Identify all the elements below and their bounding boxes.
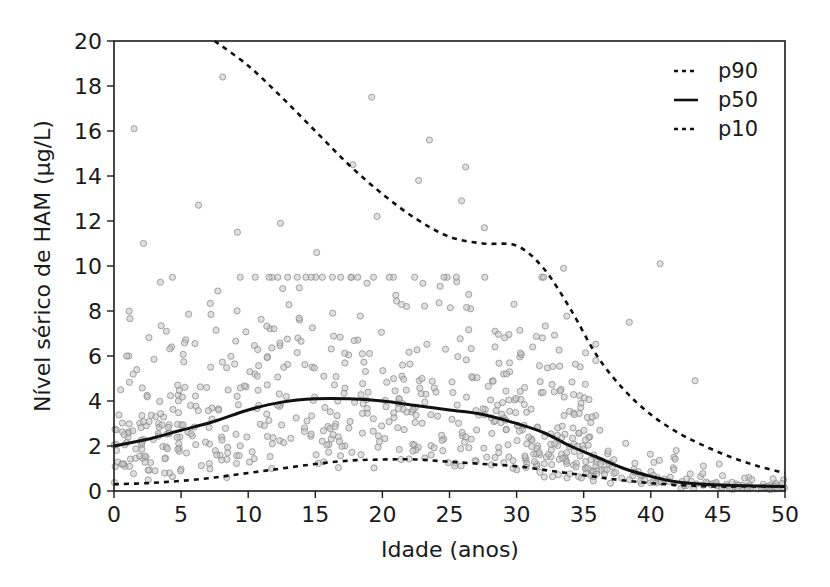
data-point	[434, 413, 440, 419]
y-tick-label: 0	[88, 479, 102, 504]
data-point	[433, 389, 439, 395]
data-point	[206, 424, 212, 430]
data-point	[485, 383, 491, 389]
data-point	[234, 393, 240, 399]
data-point	[355, 274, 361, 280]
data-point	[264, 323, 270, 329]
data-point	[419, 375, 425, 381]
data-point	[313, 452, 319, 458]
curve-p50	[114, 398, 785, 486]
data-point	[151, 356, 157, 362]
plot-frame	[114, 41, 785, 491]
data-point	[321, 373, 327, 379]
data-point	[126, 421, 132, 427]
data-point	[542, 323, 548, 329]
data-point	[366, 350, 372, 356]
data-point	[492, 344, 498, 350]
data-point	[333, 373, 339, 379]
data-point	[261, 422, 267, 428]
data-point	[436, 300, 442, 306]
data-point	[175, 382, 181, 388]
data-point	[466, 291, 472, 297]
data-point	[597, 461, 603, 467]
data-point	[569, 435, 575, 441]
y-tick-label: 2	[88, 434, 102, 459]
data-point	[193, 442, 199, 448]
data-point	[673, 447, 679, 453]
data-point	[517, 327, 523, 333]
data-point	[419, 420, 425, 426]
legend-item-p90: p90	[674, 59, 758, 83]
legend: p90 p50 p10	[674, 59, 758, 141]
legend-item-p50: p50	[674, 88, 758, 112]
data-point	[657, 261, 663, 267]
data-point	[576, 430, 582, 436]
data-point	[551, 389, 557, 395]
data-point	[522, 453, 528, 459]
data-point	[169, 274, 175, 280]
data-point	[536, 449, 542, 455]
data-point	[370, 416, 376, 422]
data-point	[142, 453, 148, 459]
data-point	[278, 422, 284, 428]
legend-item-p10: p10	[674, 117, 758, 141]
data-point	[578, 405, 584, 411]
data-point	[237, 274, 243, 280]
data-point	[455, 420, 461, 426]
data-point	[319, 274, 325, 280]
x-tick-label: 45	[704, 502, 732, 527]
data-point	[573, 464, 579, 470]
data-point	[463, 357, 469, 363]
data-point	[560, 455, 566, 461]
y-axis-title: Nível sérico de HAM (µg/L)	[30, 120, 55, 412]
data-point	[142, 459, 148, 465]
x-tick-label: 20	[368, 502, 396, 527]
legend-label-p50: p50	[718, 88, 758, 112]
data-point	[514, 438, 520, 444]
data-point	[145, 467, 151, 473]
data-point	[198, 463, 204, 469]
data-point	[144, 394, 150, 400]
x-tick-label: 25	[436, 502, 464, 527]
data-point	[503, 371, 509, 377]
data-point	[294, 350, 300, 356]
data-point	[162, 456, 168, 462]
data-point	[219, 359, 225, 365]
data-point	[374, 213, 380, 219]
data-point	[131, 126, 137, 132]
data-point	[225, 387, 231, 393]
data-point	[583, 458, 589, 464]
data-point	[133, 446, 139, 452]
data-point	[379, 423, 385, 429]
data-point	[517, 388, 523, 394]
data-point	[550, 363, 556, 369]
data-point	[127, 316, 133, 322]
data-point	[235, 402, 241, 408]
data-point	[277, 340, 283, 346]
data-point	[396, 396, 402, 402]
data-point	[138, 424, 144, 430]
data-point	[562, 431, 568, 437]
data-point	[395, 425, 401, 431]
data-point	[428, 452, 434, 458]
y-tick-label: 6	[88, 344, 102, 369]
data-point	[159, 422, 165, 428]
data-point	[275, 274, 281, 280]
data-point	[119, 461, 125, 467]
data-point	[284, 336, 290, 342]
data-point	[503, 427, 509, 433]
data-point	[499, 399, 505, 405]
data-point	[549, 473, 555, 479]
data-point	[403, 387, 409, 393]
data-point	[213, 327, 219, 333]
data-point	[386, 274, 392, 280]
data-point	[459, 429, 465, 435]
data-point	[158, 323, 164, 329]
data-point	[528, 406, 534, 412]
data-point	[458, 446, 464, 452]
data-point	[559, 423, 565, 429]
data-point	[570, 425, 576, 431]
data-point	[480, 406, 486, 412]
data-point	[468, 345, 474, 351]
data-point	[195, 202, 201, 208]
